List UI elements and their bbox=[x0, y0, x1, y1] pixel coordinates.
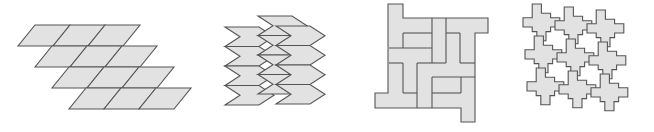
cross-tile bbox=[555, 7, 592, 44]
cross-tile bbox=[525, 36, 562, 73]
parallelogram-tessellation bbox=[18, 25, 191, 109]
pinwheel-polyomino-tessellation bbox=[375, 4, 488, 122]
chevron-tessellation bbox=[225, 16, 325, 105]
tessellation-figures bbox=[0, 0, 654, 132]
cross-tile bbox=[523, 4, 560, 41]
cross-tessellation bbox=[523, 4, 628, 111]
cross-tile bbox=[589, 42, 626, 79]
cross-tile bbox=[559, 71, 596, 108]
cross-tile bbox=[527, 68, 564, 105]
cross-tile bbox=[587, 10, 624, 47]
cross-tile bbox=[591, 74, 628, 111]
cross-tile bbox=[557, 39, 594, 76]
